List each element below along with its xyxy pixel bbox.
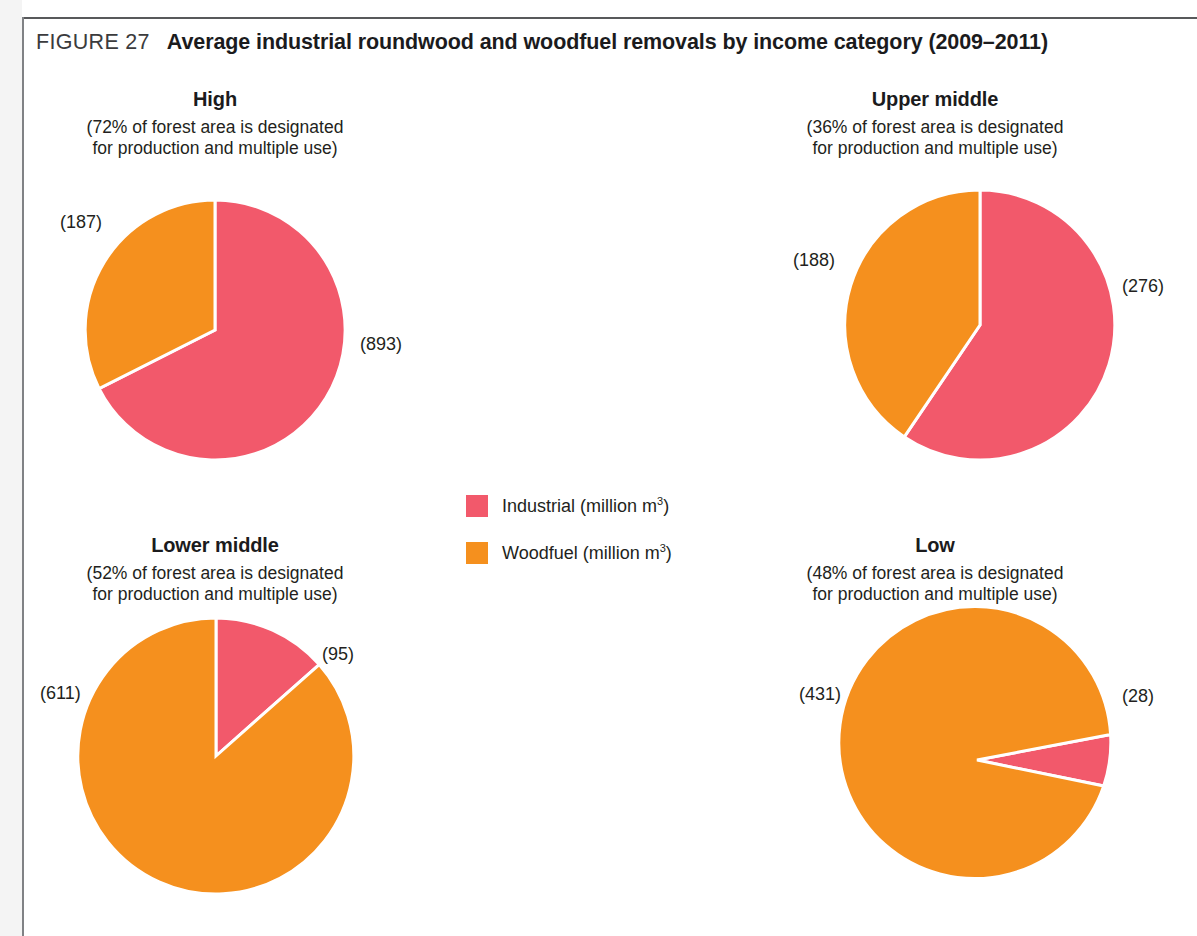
- figure-title: Average industrial roundwood and woodfue…: [167, 30, 1048, 55]
- pie-chart-upper-middle: [845, 190, 1115, 460]
- slice-label-industrial-low: (28): [1122, 686, 1154, 707]
- pie-chart-low: [841, 624, 1113, 896]
- panel-heading-upper-middle: Upper middle (36% of forest area is desi…: [725, 88, 1145, 160]
- panel-heading-lower-middle: Lower middle (52% of forest area is desi…: [5, 534, 425, 606]
- figure-panel: FIGURE 27 Average industrial roundwood a…: [0, 0, 1197, 936]
- chart-legend: Industrial (million m3) Woodfuel (millio…: [466, 489, 672, 583]
- panel-heading-low: Low (48% of forest area is designated fo…: [725, 534, 1145, 606]
- slice-label-woodfuel-lower-middle: (611): [40, 683, 81, 704]
- pie-chart-high: [85, 200, 345, 460]
- legend-label-woodfuel-text: Woodfuel (million m: [502, 543, 660, 563]
- slice-label-industrial-upper-middle: (276): [1122, 276, 1164, 297]
- pie-slice-woodfuel-low: [839, 607, 1111, 879]
- figure-top-rule: [22, 17, 1197, 19]
- panel-subtitle-upper-middle: (36% of forest area is designated for pr…: [725, 117, 1145, 160]
- slice-label-woodfuel-upper-middle: (188): [793, 250, 835, 271]
- legend-label-woodfuel-end: ): [666, 543, 672, 563]
- panel-subtitle-low: (48% of forest area is designated for pr…: [725, 563, 1145, 606]
- figure-number: FIGURE 27: [36, 30, 150, 55]
- legend-label-industrial-end: ): [663, 496, 669, 516]
- panel-subtitle-lower-middle: (52% of forest area is designated for pr…: [5, 563, 425, 606]
- pie-chart-lower-middle: [78, 618, 354, 894]
- panel-title-lower-middle: Lower middle: [5, 534, 425, 556]
- legend-swatch-industrial: [466, 495, 488, 517]
- panel-title-low: Low: [725, 534, 1145, 556]
- slice-label-woodfuel-high: (187): [60, 212, 102, 233]
- legend-item-woodfuel: Woodfuel (million m3): [466, 536, 672, 570]
- legend-swatch-woodfuel: [466, 542, 488, 564]
- panel-subtitle-high: (72% of forest area is designated for pr…: [5, 117, 425, 160]
- panel-title-upper-middle: Upper middle: [725, 88, 1145, 110]
- slice-label-industrial-high: (893): [360, 334, 402, 355]
- slice-label-industrial-lower-middle: (95): [322, 644, 354, 665]
- legend-label-industrial-text: Industrial (million m: [502, 496, 657, 516]
- legend-item-industrial: Industrial (million m3): [466, 489, 672, 523]
- legend-label-woodfuel: Woodfuel (million m3): [502, 542, 672, 564]
- slice-label-woodfuel-low: (431): [799, 684, 841, 705]
- figure-header: FIGURE 27 Average industrial roundwood a…: [36, 30, 1048, 55]
- panel-title-high: High: [5, 88, 425, 110]
- legend-label-industrial: Industrial (million m3): [502, 495, 669, 517]
- panel-heading-high: High (72% of forest area is designated f…: [5, 88, 425, 160]
